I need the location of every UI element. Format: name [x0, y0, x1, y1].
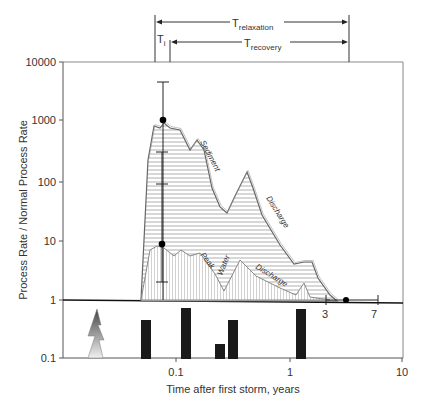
x-tick-1: 1: [287, 366, 293, 378]
range-label-3: 3: [322, 308, 328, 320]
time-annotations: Trelaxation Trecovery Ti: [155, 15, 349, 62]
chart-canvas: 10000 1000 100 10 1 0.1 Process Rate / N…: [0, 0, 423, 405]
x-tick-0.1: 0.1: [168, 366, 183, 378]
storm-bar-5: [296, 309, 306, 359]
recovery-point: [343, 297, 349, 303]
x-axis: 0.1 1 10 Time after first storm, years: [166, 358, 408, 395]
x-tick-10: 10: [396, 366, 408, 378]
storm-bar-1: [141, 320, 151, 359]
y-axis: 10000 1000 100 10 1 0.1 Process Rate / N…: [17, 56, 63, 364]
y-tick-0.1: 0.1: [41, 352, 56, 364]
y-axis-title: Process Rate / Normal Process Rate: [17, 120, 29, 300]
y-tick-1000: 1000: [32, 114, 56, 126]
y-tick-1: 1: [50, 294, 56, 306]
y-tick-10: 10: [44, 235, 56, 247]
x-axis-title: Time after first storm, years: [166, 383, 300, 395]
y-tick-100: 100: [38, 176, 56, 188]
peak-water-point: [159, 241, 166, 248]
y-tick-10000: 10000: [25, 56, 56, 68]
lightning-bolt-icon: [88, 309, 104, 358]
storm-bar-2: [181, 308, 191, 359]
range-label-7: 7: [371, 308, 377, 320]
storm-bar-3: [215, 344, 225, 359]
t-relaxation-label: Trelaxation: [232, 17, 273, 32]
storm-bars: [141, 308, 306, 359]
t-recovery-label: Trecovery: [244, 37, 281, 52]
t-i-label: Ti: [157, 33, 166, 48]
storm-bar-4: [228, 320, 238, 359]
peak-sediment-point: [160, 117, 167, 124]
